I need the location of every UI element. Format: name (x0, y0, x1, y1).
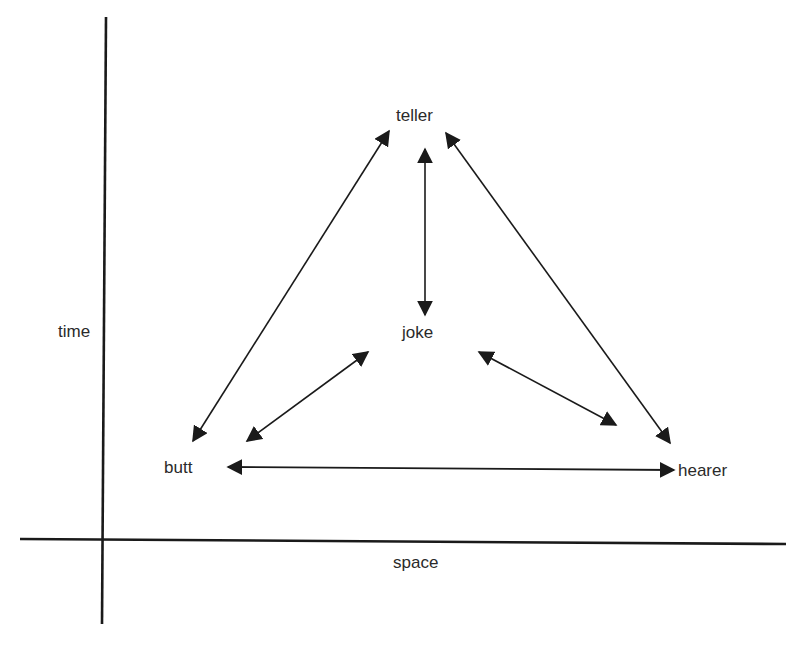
node-butt: butt (164, 458, 193, 477)
joke-relations-diagram: time space teller joke butt hearer (0, 0, 802, 653)
arrow-butt-hearer (228, 467, 674, 470)
time-axis (102, 17, 106, 624)
node-teller: teller (396, 106, 433, 125)
node-joke: joke (401, 323, 433, 342)
y-axis-label: time (58, 322, 90, 341)
node-hearer: hearer (678, 461, 727, 480)
space-axis (20, 539, 786, 544)
arrow-teller-butt (193, 131, 389, 441)
arrow-butt-joke (247, 352, 368, 441)
arrow-joke-hearer (479, 352, 616, 425)
arrow-teller-hearer (446, 133, 670, 443)
x-axis-label: space (393, 553, 438, 572)
